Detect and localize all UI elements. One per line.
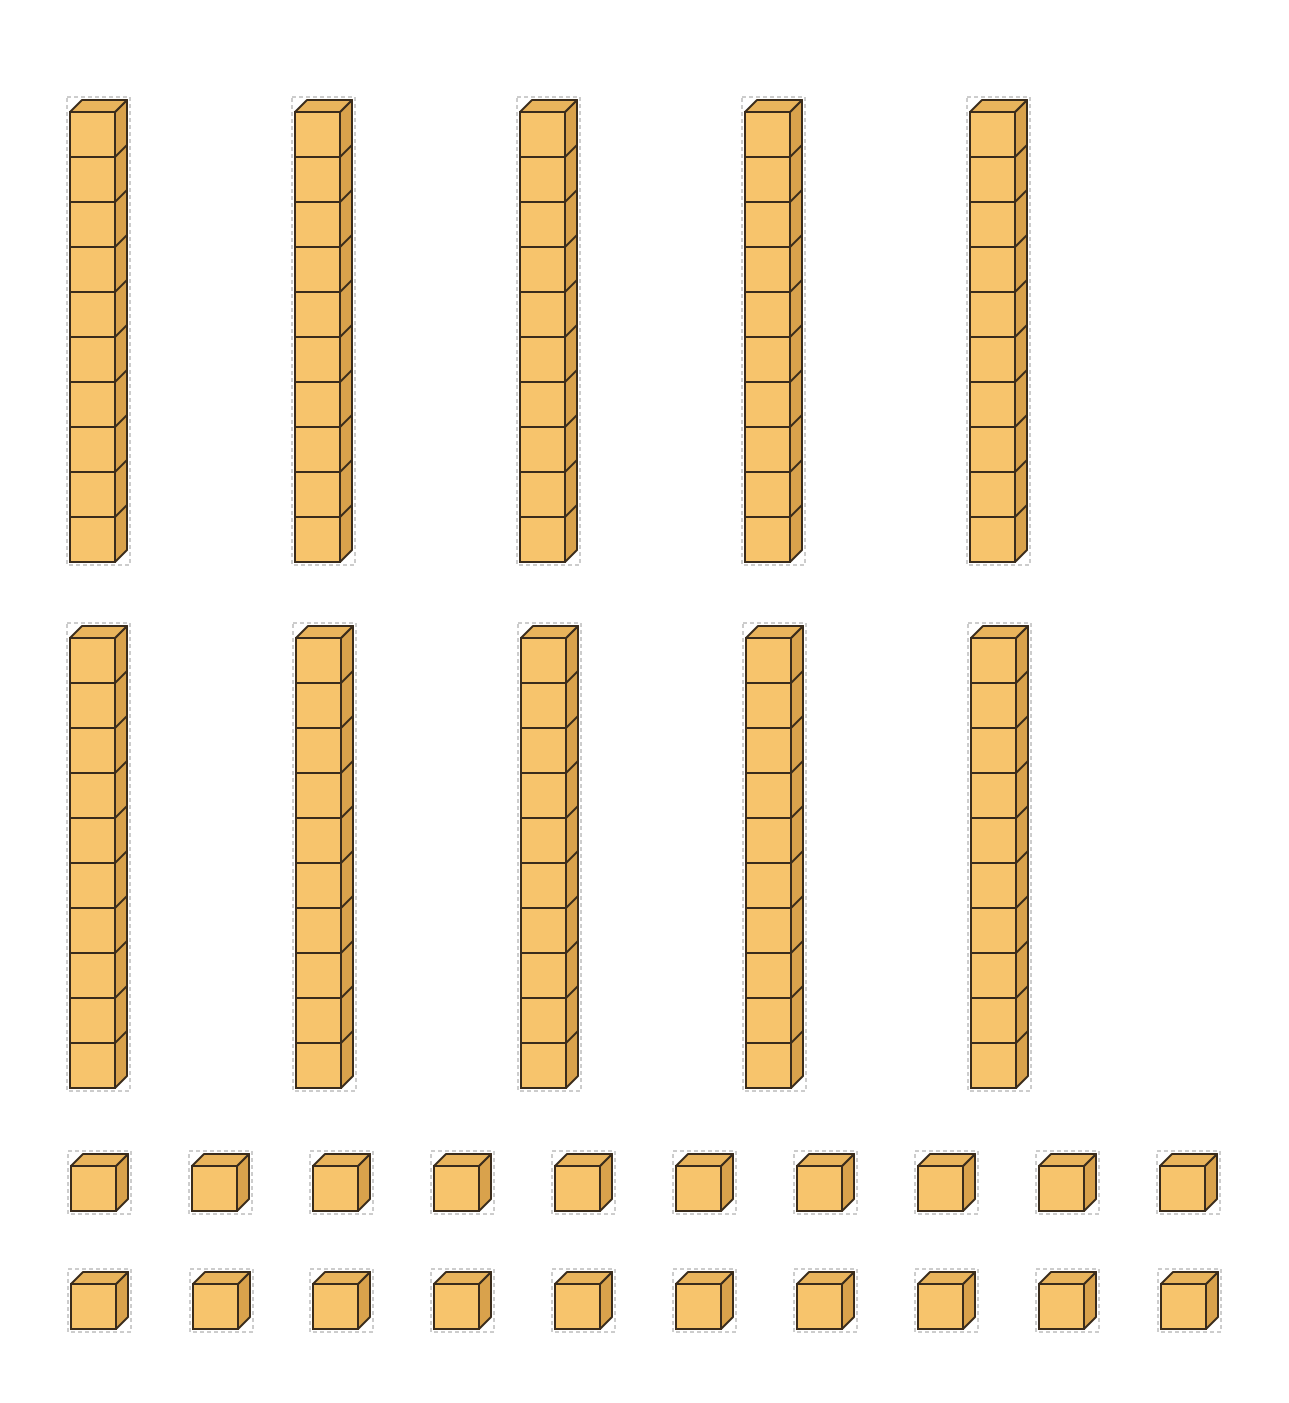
cube-front-face (70, 728, 115, 773)
cube-front-face (970, 112, 1015, 157)
unit-cube (190, 1269, 253, 1332)
cube-front-face (797, 1284, 842, 1329)
tens-rod (518, 623, 581, 1091)
cube-front-face (295, 247, 340, 292)
cube-front-face (520, 427, 565, 472)
cube-front-face (70, 773, 115, 818)
cube-front-face (296, 728, 341, 773)
unit-cube (1036, 1151, 1099, 1214)
cube-front-face (70, 683, 115, 728)
cube-front-face (746, 728, 791, 773)
cube-front-face (70, 292, 115, 337)
cube-front-face (745, 112, 790, 157)
cube-front-face (434, 1166, 479, 1211)
cube-front-face (970, 472, 1015, 517)
cube-front-face (970, 427, 1015, 472)
cube-front-face (296, 953, 341, 998)
cube-front-face (521, 728, 566, 773)
cube-front-face (295, 292, 340, 337)
cube-front-face (521, 1043, 566, 1088)
cube-front-face (521, 998, 566, 1043)
cube-front-face (746, 773, 791, 818)
cube-front-face (71, 1166, 116, 1211)
cube-front-face (970, 292, 1015, 337)
cube-front-face (70, 517, 115, 562)
cube-front-face (745, 382, 790, 427)
cube-front-face (296, 818, 341, 863)
cube-front-face (521, 908, 566, 953)
unit-cube (673, 1269, 736, 1332)
tens-rod (67, 97, 130, 565)
cube-front-face (970, 337, 1015, 382)
cube-front-face (1160, 1166, 1205, 1211)
cube-front-face (434, 1284, 479, 1329)
cube-front-face (295, 472, 340, 517)
cube-front-face (746, 638, 791, 683)
cube-front-face (970, 247, 1015, 292)
tens-rod (968, 623, 1031, 1091)
cube-front-face (296, 998, 341, 1043)
cube-front-face (971, 863, 1016, 908)
cube-front-face (970, 517, 1015, 562)
cube-front-face (70, 863, 115, 908)
cube-front-face (70, 157, 115, 202)
unit-cube (673, 1151, 736, 1214)
unit-cube (552, 1269, 615, 1332)
cube-front-face (295, 112, 340, 157)
tens-rod (967, 97, 1030, 565)
cube-front-face (970, 157, 1015, 202)
cube-front-face (745, 472, 790, 517)
cube-front-face (521, 818, 566, 863)
cube-front-face (745, 247, 790, 292)
cube-front-face (296, 863, 341, 908)
cube-front-face (520, 472, 565, 517)
cube-front-face (520, 157, 565, 202)
cube-front-face (70, 112, 115, 157)
unit-cube (1036, 1269, 1099, 1332)
unit-cube (189, 1151, 252, 1214)
cube-front-face (70, 427, 115, 472)
cube-front-face (313, 1284, 358, 1329)
cube-front-face (918, 1166, 963, 1211)
cube-front-face (746, 908, 791, 953)
unit-cube (1158, 1269, 1221, 1332)
cube-front-face (746, 818, 791, 863)
cube-front-face (296, 908, 341, 953)
tens-rod (67, 623, 130, 1091)
unit-cube (431, 1151, 494, 1214)
cube-front-face (746, 953, 791, 998)
cube-front-face (745, 202, 790, 247)
cube-front-face (192, 1166, 237, 1211)
cube-front-face (745, 157, 790, 202)
tens-rods (67, 97, 1031, 1091)
cube-front-face (520, 517, 565, 562)
cube-front-face (555, 1166, 600, 1211)
cube-front-face (970, 382, 1015, 427)
cube-front-face (70, 638, 115, 683)
cube-front-face (971, 908, 1016, 953)
unit-cube (552, 1151, 615, 1214)
cube-front-face (295, 337, 340, 382)
unit-cube (310, 1269, 373, 1332)
cube-front-face (745, 517, 790, 562)
cube-front-face (745, 427, 790, 472)
unit-cube (68, 1269, 131, 1332)
cube-front-face (676, 1284, 721, 1329)
unit-cube (915, 1269, 978, 1332)
cube-front-face (70, 472, 115, 517)
cube-front-face (970, 202, 1015, 247)
cube-front-face (296, 1043, 341, 1088)
unit-cubes (68, 1151, 1221, 1332)
cube-front-face (971, 953, 1016, 998)
cube-front-face (676, 1166, 721, 1211)
base-ten-blocks-sheet (0, 0, 1289, 1403)
cube-front-face (70, 953, 115, 998)
cube-front-face (70, 382, 115, 427)
cube-front-face (971, 683, 1016, 728)
cube-front-face (1039, 1166, 1084, 1211)
cube-front-face (521, 638, 566, 683)
cube-front-face (746, 683, 791, 728)
cube-front-face (295, 157, 340, 202)
unit-cube (794, 1151, 857, 1214)
cube-front-face (70, 818, 115, 863)
